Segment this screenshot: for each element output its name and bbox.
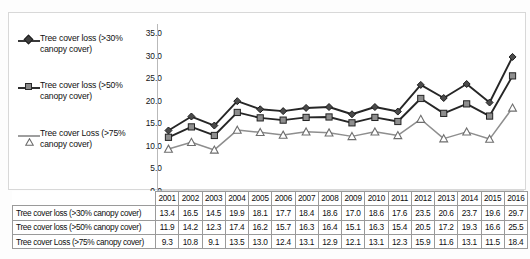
- table-cell: 19.6: [481, 206, 504, 220]
- table-cell: 14.2: [179, 220, 202, 234]
- legend-key-50pct: [18, 81, 40, 94]
- table-year-header: 2015: [481, 192, 504, 206]
- table-cell: 20.5: [411, 220, 434, 234]
- table-cell: 16.3: [295, 220, 318, 234]
- table-corner-cell: [13, 192, 156, 206]
- table-year-header: 2004: [225, 192, 248, 206]
- legend-label-30pct: Tree cover loss (>30% canopy cover): [40, 33, 136, 55]
- table-year-header: 2012: [411, 192, 434, 206]
- table-header-row: 2001200220032004200520062007200820092010…: [13, 192, 528, 206]
- data-table-container: 2001200220032004200520062007200820092010…: [12, 191, 527, 247]
- diamond-marker-icon: [25, 36, 32, 43]
- table-cell: 23.7: [458, 206, 481, 220]
- table-cell: 16.3: [365, 220, 388, 234]
- table-row: Tree cover loss (>30% canopy cover)13.41…: [13, 206, 528, 220]
- table-cell: 15.1: [342, 220, 365, 234]
- table-cell: 18.1: [249, 206, 272, 220]
- table-cell: 16.2: [249, 220, 272, 234]
- table-year-header: 2008: [318, 192, 341, 206]
- table-cell: 13.1: [458, 234, 481, 248]
- table-cell: 23.5: [411, 206, 434, 220]
- table-cell: 18.4: [504, 234, 527, 248]
- table-year-header: 2006: [272, 192, 295, 206]
- table-cell: 20.6: [435, 206, 458, 220]
- legend-item-50pct: Tree cover loss (>50% canopy cover): [18, 80, 136, 102]
- table-cell: 17.7: [272, 206, 295, 220]
- table-year-header: 2009: [342, 192, 365, 206]
- series-canvas: [157, 24, 524, 190]
- legend-item-75pct: Tree cover Loss (>75% canopy cover): [18, 128, 136, 150]
- table-cell: 10.8: [179, 234, 202, 248]
- chart-legend: Tree cover loss (>30% canopy cover) Tree…: [18, 30, 136, 175]
- table-cell: 15.7: [272, 220, 295, 234]
- line-chart-svg: [157, 24, 524, 199]
- table-cell: 17.6: [388, 206, 411, 220]
- table-cell: 16.6: [481, 220, 504, 234]
- table-cell: 16.5: [179, 206, 202, 220]
- table-year-header: 2013: [435, 192, 458, 206]
- triangle-marker-icon: [25, 132, 34, 150]
- table-cell: 18.4: [295, 206, 318, 220]
- table-row-label: Tree cover Loss (>75% canopy cover): [13, 234, 156, 248]
- table-cell: 18.6: [318, 206, 341, 220]
- legend-item-30pct: Tree cover loss (>30% canopy cover): [18, 33, 136, 55]
- table-cell: 12.1: [342, 234, 365, 248]
- table-cell: 9.1: [202, 234, 225, 248]
- data-table: 2001200220032004200520062007200820092010…: [12, 191, 528, 249]
- table-cell: 12.3: [202, 220, 225, 234]
- table-cell: 13.4: [156, 206, 179, 220]
- table-cell: 16.4: [318, 220, 341, 234]
- table-cell: 25.5: [504, 220, 527, 234]
- table-cell: 11.6: [435, 234, 458, 248]
- table-year-header: 2007: [295, 192, 318, 206]
- table-cell: 19.3: [458, 220, 481, 234]
- table-year-header: 2002: [179, 192, 202, 206]
- legend-label-75pct: Tree cover Loss (>75% canopy cover): [40, 128, 136, 150]
- table-cell: 12.9: [318, 234, 341, 248]
- table-cell: 19.9: [225, 206, 248, 220]
- table-year-header: 2010: [365, 192, 388, 206]
- table-row-label: Tree cover loss (>30% canopy cover): [13, 206, 156, 220]
- legend-key-30pct: [18, 34, 40, 47]
- legend-label-50pct: Tree cover loss (>50% canopy cover): [40, 80, 136, 102]
- table-cell: 17.2: [435, 220, 458, 234]
- table-cell: 15.9: [411, 234, 434, 248]
- table-row: Tree cover loss (>50% canopy cover)11.91…: [13, 220, 528, 234]
- table-cell: 18.6: [365, 206, 388, 220]
- table-cell: 29.7: [504, 206, 527, 220]
- table-cell: 11.5: [481, 234, 504, 248]
- table-cell: 13.5: [225, 234, 248, 248]
- table-cell: 14.5: [202, 206, 225, 220]
- table-cell: 15.4: [388, 220, 411, 234]
- table-cell: 12.4: [272, 234, 295, 248]
- table-year-header: 2001: [156, 192, 179, 206]
- table-cell: 11.9: [156, 220, 179, 234]
- table-cell: 13.1: [295, 234, 318, 248]
- table-cell: 12.3: [388, 234, 411, 248]
- table-cell: 17.0: [342, 206, 365, 220]
- table-year-header: 2005: [249, 192, 272, 206]
- square-marker-icon: [25, 83, 32, 90]
- table-cell: 9.3: [156, 234, 179, 248]
- table-cell: 17.4: [225, 220, 248, 234]
- table-year-header: 2003: [202, 192, 225, 206]
- chart-screenshot: Tree cover loss (>30% canopy cover) Tree…: [0, 0, 530, 259]
- table-row-label: Tree cover loss (>50% canopy cover): [13, 220, 156, 234]
- plot-area: 35.0 30.0 25.0 20.0 15.0 10.0 5.0 0.0: [136, 24, 524, 190]
- legend-key-75pct: [18, 129, 40, 142]
- table-year-header: 2016: [504, 192, 527, 206]
- table-year-header: 2014: [458, 192, 481, 206]
- table-year-header: 2011: [388, 192, 411, 206]
- table-cell: 13.0: [249, 234, 272, 248]
- table-row: Tree cover Loss (>75% canopy cover)9.310…: [13, 234, 528, 248]
- table-cell: 13.1: [365, 234, 388, 248]
